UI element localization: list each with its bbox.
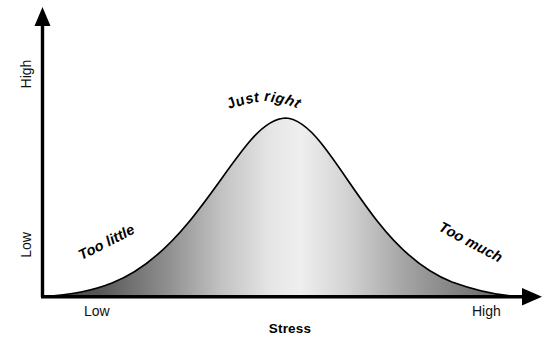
curve-area-fill	[44, 118, 516, 297]
x-axis-label-high: High	[472, 303, 501, 319]
annotation-just-right: Just right	[230, 88, 297, 104]
x-axis-title: Stress	[245, 321, 335, 336]
y-axis-label-high: High	[18, 44, 34, 104]
annotation-just-right-text: Just right	[230, 88, 297, 104]
bell-curve-plot	[0, 0, 551, 342]
x-axis-label-low: Low	[84, 303, 110, 319]
y-axis-arrowhead	[35, 7, 51, 26]
x-axis-arrowhead	[522, 288, 542, 306]
y-axis-label-low: Low	[18, 215, 34, 275]
chart-figure: High Low Low High Stress Too little Just…	[0, 0, 551, 342]
